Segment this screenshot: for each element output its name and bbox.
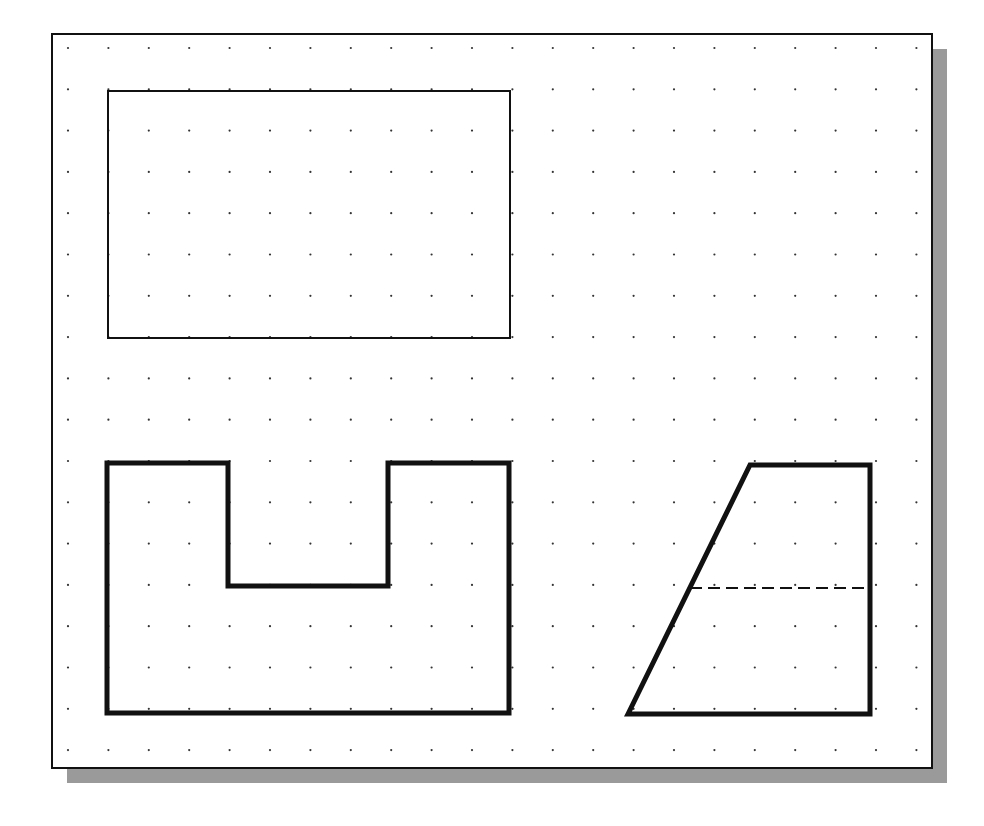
grid-dot <box>229 708 231 710</box>
grid-dot <box>713 666 715 668</box>
grid-dot <box>713 130 715 132</box>
grid-dot <box>350 460 352 462</box>
grid-dot <box>633 171 635 173</box>
grid-dot <box>511 253 513 255</box>
grid-dot <box>754 171 756 173</box>
grid-dot <box>188 584 190 586</box>
grid-dot <box>390 253 392 255</box>
drawing-frame[interactable] <box>52 34 932 768</box>
cad-drawing-canvas[interactable] <box>0 0 984 826</box>
grid-dot <box>915 47 917 49</box>
grid-dot <box>269 47 271 49</box>
grid-dot <box>835 584 837 586</box>
grid-dot <box>552 625 554 627</box>
grid-dot <box>713 253 715 255</box>
grid-dot <box>269 666 271 668</box>
grid-dot <box>754 543 756 545</box>
grid-dot <box>269 295 271 297</box>
grid-dot <box>148 501 150 503</box>
grid-dot <box>67 625 69 627</box>
grid-dot <box>754 666 756 668</box>
grid-dot <box>633 749 635 751</box>
grid-dot <box>875 88 877 90</box>
grid-dot <box>915 336 917 338</box>
grid-dot <box>350 749 352 751</box>
grid-dot <box>835 625 837 627</box>
grid-dot <box>592 584 594 586</box>
grid-dot <box>875 460 877 462</box>
grid-dot <box>552 501 554 503</box>
grid-dot <box>633 584 635 586</box>
grid-dot <box>309 377 311 379</box>
grid-dot <box>269 749 271 751</box>
grid-dot <box>794 501 796 503</box>
grid-dot <box>875 749 877 751</box>
grid-dot <box>350 171 352 173</box>
grid-dot <box>835 212 837 214</box>
grid-dot <box>390 295 392 297</box>
grid-dot <box>552 460 554 462</box>
grid-dot <box>673 501 675 503</box>
grid-dot <box>552 47 554 49</box>
grid-dot <box>875 253 877 255</box>
grid-dot <box>754 419 756 421</box>
grid-dot <box>713 501 715 503</box>
grid-dot <box>107 377 109 379</box>
grid-dot <box>511 460 513 462</box>
grid-dot <box>471 171 473 173</box>
grid-dot <box>188 666 190 668</box>
grid-dot <box>835 88 837 90</box>
grid-dot <box>390 47 392 49</box>
grid-dot <box>67 501 69 503</box>
grid-dot <box>148 47 150 49</box>
grid-dot <box>835 749 837 751</box>
grid-dot <box>188 543 190 545</box>
grid-dot <box>390 749 392 751</box>
grid-dot <box>552 253 554 255</box>
grid-dot <box>875 47 877 49</box>
grid-dot <box>633 88 635 90</box>
grid-dot <box>794 625 796 627</box>
grid-dot <box>511 625 513 627</box>
grid-dot <box>915 625 917 627</box>
grid-dot <box>148 171 150 173</box>
grid-dot <box>592 47 594 49</box>
grid-dot <box>592 666 594 668</box>
grid-dot <box>188 171 190 173</box>
grid-dot <box>794 666 796 668</box>
grid-dot <box>875 295 877 297</box>
grid-dot <box>835 336 837 338</box>
grid-dot <box>794 336 796 338</box>
grid-dot <box>673 336 675 338</box>
grid-dot <box>915 88 917 90</box>
grid-dot <box>471 501 473 503</box>
grid-dot <box>229 171 231 173</box>
grid-dot <box>309 543 311 545</box>
grid-dot <box>471 666 473 668</box>
grid-dot <box>794 88 796 90</box>
grid-dot <box>915 666 917 668</box>
grid-dot <box>633 377 635 379</box>
grid-dot <box>875 212 877 214</box>
grid-dot <box>471 584 473 586</box>
grid-dot <box>188 130 190 132</box>
grid-dot <box>754 47 756 49</box>
grid-dot <box>188 47 190 49</box>
grid-dot <box>592 460 594 462</box>
grid-dot <box>552 295 554 297</box>
grid-dot <box>673 460 675 462</box>
grid-dot <box>835 666 837 668</box>
grid-dot <box>633 460 635 462</box>
grid-dot <box>794 295 796 297</box>
grid-dot <box>350 625 352 627</box>
grid-dot <box>229 377 231 379</box>
grid-dot <box>794 419 796 421</box>
grid-dot <box>431 584 433 586</box>
grid-dot <box>269 130 271 132</box>
grid-dot <box>309 749 311 751</box>
grid-dot <box>229 625 231 627</box>
grid-dot <box>633 130 635 132</box>
grid-dot <box>309 253 311 255</box>
grid-dot <box>471 377 473 379</box>
grid-dot <box>713 212 715 214</box>
